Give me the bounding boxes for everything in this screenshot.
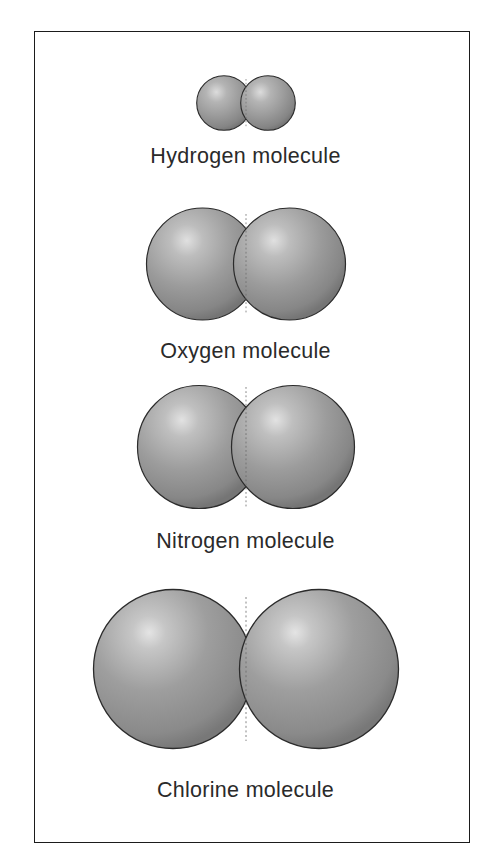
oxygen-molecule-illustration [143, 198, 349, 330]
molecule-diagram-hydrogen: Hydrogen molecule [0, 70, 491, 169]
hydrogen-molecule-illustration [196, 70, 296, 136]
nitrogen-atom-right [231, 386, 354, 509]
hydrogen-molecule-label: Hydrogen molecule [0, 144, 491, 169]
molecule-figure: Hydrogen molecule [0, 0, 491, 864]
oxygen-molecule-label: Oxygen molecule [0, 339, 491, 364]
chlorine-molecule-illustration [90, 573, 402, 767]
molecule-diagram-chlorine: Chlorine molecule [0, 573, 491, 803]
oxygen-atom-right [233, 208, 345, 320]
chlorine-atom-right [239, 590, 398, 749]
hydrogen-atom-right [240, 76, 295, 131]
nitrogen-molecule-label: Nitrogen molecule [0, 529, 491, 554]
chlorine-atom-left [93, 590, 252, 749]
molecule-diagram-oxygen: Oxygen molecule [0, 198, 491, 364]
nitrogen-molecule-illustration [133, 374, 359, 520]
molecule-diagram-nitrogen: Nitrogen molecule [0, 374, 491, 554]
chlorine-molecule-label: Chlorine molecule [0, 778, 491, 803]
